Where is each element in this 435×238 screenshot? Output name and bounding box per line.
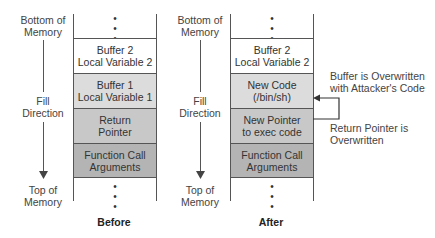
buffer-overwritten-annotation: Buffer is Overwritten with Attacker's Co… xyxy=(330,70,425,94)
after-cell-buffer2: Buffer 2Local Variable 2 xyxy=(231,38,313,73)
left-fill-direction-label: Fill Direction xyxy=(13,95,73,119)
pointer-redirect-arrow-icon xyxy=(312,92,352,122)
after-cell-function-args: Function CallArguments xyxy=(231,143,313,178)
before-cell-function-args: Function CallArguments xyxy=(74,143,156,178)
left-top-of-memory-label: Top of Memory xyxy=(13,184,73,208)
before-cell-buffer1: Buffer 1Local Variable 1 xyxy=(74,73,156,108)
after-stack: ••• Buffer 2Local Variable 2 New Code(/b… xyxy=(230,14,314,201)
left-arrow-down-icon xyxy=(39,171,48,179)
right-fill-line-upper xyxy=(200,40,201,92)
right-top-of-memory-label: Top of Memory xyxy=(170,184,230,208)
left-fill-arrow-line xyxy=(43,122,44,172)
right-bottom-of-memory-label: Bottom of Memory xyxy=(170,14,230,38)
left-bottom-of-memory-label: Bottom of Memory xyxy=(13,14,73,38)
before-caption: Before xyxy=(73,216,155,228)
right-arrow-down-icon xyxy=(196,171,205,179)
after-bottom-dots: ••• xyxy=(231,182,313,212)
after-cell-new-pointer: New Pointerto exec code xyxy=(231,108,313,143)
before-bottom-dots: ••• xyxy=(74,182,156,212)
after-caption: After xyxy=(230,216,312,228)
right-fill-arrow-line xyxy=(200,122,201,172)
after-cell-new-code: New Code(/bin/sh) xyxy=(231,73,313,108)
left-fill-line-upper xyxy=(43,40,44,92)
before-stack: ••• Buffer 2Local Variable 2 Buffer 1Loc… xyxy=(73,14,157,201)
before-cell-buffer2: Buffer 2Local Variable 2 xyxy=(74,38,156,73)
right-fill-direction-label: Fill Direction xyxy=(170,95,230,119)
pointer-overwritten-annotation: Return Pointer is Overwritten xyxy=(330,122,408,146)
before-cell-return-pointer: ReturnPointer xyxy=(74,108,156,143)
